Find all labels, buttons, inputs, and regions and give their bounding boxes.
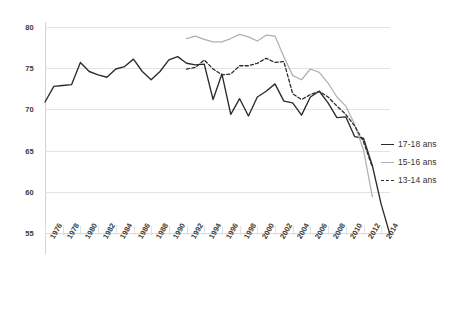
legend-item-15-16-ans[interactable]: 15-16 ans bbox=[381, 154, 455, 170]
x-tick-1980 bbox=[80, 226, 81, 235]
y-tick-label-80: 80 bbox=[8, 23, 34, 32]
x-tick-1978 bbox=[63, 226, 64, 235]
y-tick-label-65: 65 bbox=[8, 146, 34, 155]
series-line-15-16-ans bbox=[187, 34, 373, 196]
y-tick-label-55: 55 bbox=[8, 229, 34, 238]
x-tick-2004 bbox=[293, 226, 294, 235]
legend-label: 17-18 ans bbox=[398, 139, 437, 149]
x-tick-1994 bbox=[204, 226, 205, 235]
x-tick-2006 bbox=[310, 226, 311, 235]
x-axis-tick-labels: 1976197819801982198419861988199019921994… bbox=[45, 236, 390, 306]
legend-swatch-icon bbox=[381, 144, 394, 145]
x-tick-1984 bbox=[116, 226, 117, 235]
legend-swatch-icon bbox=[381, 162, 394, 163]
line-chart: 556065707580 197619781980198219841986198… bbox=[0, 0, 458, 315]
legend-item-17-18-ans[interactable]: 17-18 ans bbox=[381, 136, 455, 152]
x-tick-1996 bbox=[222, 226, 223, 235]
x-tick-1976 bbox=[45, 226, 46, 235]
x-tick-2010 bbox=[346, 226, 347, 235]
x-tick-1992 bbox=[187, 226, 188, 235]
plot-area bbox=[45, 27, 390, 233]
legend-label: 13-14 ans bbox=[398, 175, 437, 185]
y-tick-label-75: 75 bbox=[8, 64, 34, 73]
x-tick-1986 bbox=[134, 226, 135, 235]
x-tick-1988 bbox=[151, 226, 152, 235]
series-lines bbox=[45, 27, 390, 233]
y-tick-label-70: 70 bbox=[8, 105, 34, 114]
x-tick-2000 bbox=[257, 226, 258, 235]
x-tick-2014 bbox=[381, 226, 382, 235]
series-line-17-18-ans bbox=[45, 57, 390, 235]
x-tick-1998 bbox=[240, 226, 241, 235]
x-tick-2008 bbox=[328, 226, 329, 235]
x-tick-2012 bbox=[364, 226, 365, 235]
x-tick-1990 bbox=[169, 226, 170, 235]
series-line-13-14-ans bbox=[187, 58, 373, 167]
x-tick-1982 bbox=[98, 226, 99, 235]
legend-swatch-icon bbox=[381, 180, 394, 181]
legend-item-13-14-ans[interactable]: 13-14 ans bbox=[381, 172, 455, 188]
chart-legend: 17-18 ans15-16 ans13-14 ans bbox=[381, 136, 455, 190]
x-tick-2002 bbox=[275, 226, 276, 235]
y-axis-tick-labels: 556065707580 bbox=[8, 27, 38, 233]
y-tick-label-60: 60 bbox=[8, 187, 34, 196]
legend-label: 15-16 ans bbox=[398, 157, 437, 167]
